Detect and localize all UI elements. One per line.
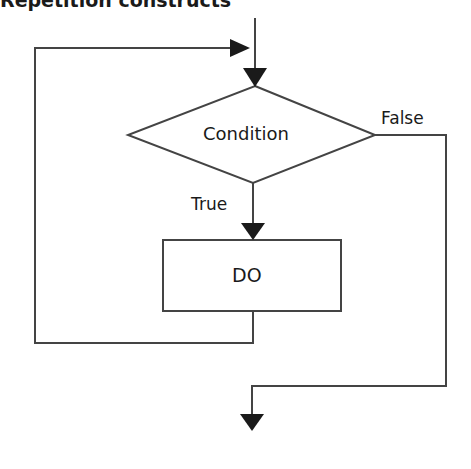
entry-arrow-icon (243, 68, 267, 87)
do-label: DO (232, 264, 262, 286)
exit-arrow-icon (240, 414, 264, 431)
loop-arrow-icon (230, 39, 250, 57)
condition-label: Condition (203, 123, 289, 144)
true-label: True (191, 194, 227, 214)
true-arrow-icon (241, 223, 265, 240)
false-label: False (381, 108, 424, 128)
flowchart (0, 0, 471, 469)
